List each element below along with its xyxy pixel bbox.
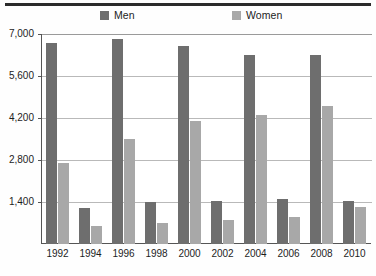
bar-women-1994[interactable]: [91, 226, 102, 244]
bar-group: [174, 34, 207, 244]
x-axis-label-2004: 2004: [239, 248, 272, 259]
bar-women-2006[interactable]: [289, 217, 300, 244]
bar-women-2002[interactable]: [223, 220, 234, 244]
bar-group: [240, 34, 273, 244]
bar-men-1992[interactable]: [46, 43, 57, 244]
legend-swatch-icon-women: [232, 11, 241, 20]
x-axis-label-1996: 1996: [107, 248, 140, 259]
bar-men-1994[interactable]: [79, 208, 90, 244]
bar-women-2000[interactable]: [190, 121, 201, 244]
bar-women-1998[interactable]: [157, 223, 168, 244]
y-axis-label: 4,200: [9, 112, 34, 123]
bar-group: [42, 34, 75, 244]
x-axis-label-2008: 2008: [305, 248, 338, 259]
bar-group: [273, 34, 306, 244]
bar-men-2010[interactable]: [343, 201, 354, 245]
bar-women-2004[interactable]: [256, 115, 267, 244]
bar-group: [207, 34, 240, 244]
legend-swatch-icon-men: [100, 11, 109, 20]
legend-label-men: Men: [114, 10, 135, 21]
bar-men-2008[interactable]: [310, 55, 321, 244]
bar-group: [339, 34, 372, 244]
bar-women-1996[interactable]: [124, 139, 135, 244]
header-rule: [5, 3, 371, 6]
bar-men-2006[interactable]: [277, 199, 288, 244]
chart-legend: Men Women: [0, 10, 376, 26]
bar-women-2008[interactable]: [322, 106, 333, 244]
legend-label-women: Women: [246, 10, 283, 21]
bar-men-2000[interactable]: [178, 46, 189, 244]
x-axis-label-1994: 1994: [74, 248, 107, 259]
x-axis-label-2000: 2000: [173, 248, 206, 259]
bar-men-2004[interactable]: [244, 55, 255, 244]
y-axis-label: 1,400: [9, 196, 34, 207]
bar-series-layer: [42, 34, 372, 244]
x-axis-label-1998: 1998: [140, 248, 173, 259]
plot-area: [41, 34, 371, 244]
y-axis-label: 7,000: [9, 28, 34, 39]
x-axis-label-2010: 2010: [338, 248, 371, 259]
bar-men-2002[interactable]: [211, 201, 222, 245]
bar-men-1996[interactable]: [112, 39, 123, 245]
bar-women-1992[interactable]: [58, 163, 69, 244]
y-axis-label: 2,800: [9, 154, 34, 165]
y-axis-labels: 1,4002,8004,2005,6007,000: [0, 34, 38, 244]
legend-item-men: Men: [100, 10, 135, 21]
x-axis-labels: 1992199419961998200020022004200620082010: [41, 248, 371, 266]
y-axis-label: 5,600: [9, 70, 34, 81]
x-axis-label-2002: 2002: [206, 248, 239, 259]
x-axis-label-2006: 2006: [272, 248, 305, 259]
bar-men-1998[interactable]: [145, 202, 156, 244]
bar-chart: Men Women 1,4002,8004,2005,6007,000 1992…: [0, 0, 376, 276]
legend-item-women: Women: [232, 10, 283, 21]
bar-group: [306, 34, 339, 244]
bar-group: [75, 34, 108, 244]
bar-group: [141, 34, 174, 244]
x-axis-label-1992: 1992: [41, 248, 74, 259]
bar-group: [108, 34, 141, 244]
bar-women-2010[interactable]: [355, 207, 366, 245]
